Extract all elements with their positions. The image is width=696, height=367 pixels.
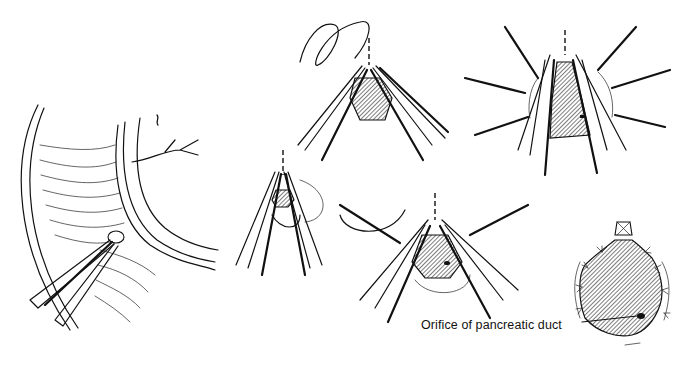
panel-stay-sutures bbox=[465, 27, 670, 175]
panel-forceps-small bbox=[236, 150, 323, 275]
pancreatic-duct-label: Orifice of pancreatic duct bbox=[421, 318, 562, 332]
surgical-illustration bbox=[0, 0, 696, 367]
panel-suture bbox=[298, 22, 448, 232]
panel-completed bbox=[575, 222, 670, 345]
panel-duodenum bbox=[21, 105, 218, 330]
panel-forceps-extended bbox=[340, 193, 528, 322]
